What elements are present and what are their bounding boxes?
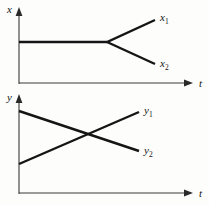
- bottom-panel-y-axis-label: y: [6, 91, 12, 103]
- curve-y2: [19, 111, 139, 151]
- curve-label-y2: y2: [143, 144, 153, 159]
- top-panel-y-axis-arrowhead: [16, 7, 23, 16]
- bottom-panel-x-axis-label: t: [199, 187, 203, 199]
- curve-label-y1: y1: [143, 104, 153, 119]
- curve-x2: [107, 42, 155, 64]
- top-panel-y-axis-label: x: [6, 3, 12, 15]
- curve-label-x1-subscript: 1: [165, 17, 169, 26]
- curve-label-y2-subscript: 2: [149, 150, 153, 159]
- curve-x1: [19, 20, 155, 42]
- curve-y1: [19, 112, 139, 164]
- bottom-panel: y t y1 y2: [6, 91, 203, 199]
- top-panel-x-axis-arrowhead: [184, 80, 193, 87]
- bottom-panel-y-axis-arrowhead: [16, 94, 23, 103]
- figure-container: x t x1 x2 y t y1 y2: [0, 0, 209, 205]
- curve-label-x2: x2: [159, 57, 169, 72]
- curve-label-x1: x1: [159, 11, 169, 26]
- bottom-panel-x-axis-arrowhead: [184, 190, 193, 197]
- top-panel-x-axis-label: t: [199, 77, 203, 89]
- bifurcation-figure: x t x1 x2 y t y1 y2: [0, 0, 209, 205]
- curve-label-y1-subscript: 1: [149, 110, 153, 119]
- curve-label-x2-subscript: 2: [165, 63, 169, 72]
- top-panel: x t x1 x2: [6, 3, 203, 89]
